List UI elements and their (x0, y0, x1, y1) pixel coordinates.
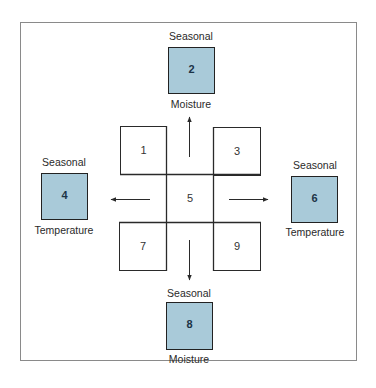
box-number: 6 (292, 192, 337, 204)
label-temperature-right: Temperature (270, 226, 360, 238)
outer-box-6: 6 (291, 176, 338, 223)
label-seasonal-left: Seasonal (19, 156, 109, 168)
grid-cell-5: 5 (167, 192, 213, 204)
outer-box-4: 4 (41, 173, 88, 220)
label-seasonal-right: Seasonal (270, 159, 360, 171)
label-moisture-bottom: Moisture (144, 353, 234, 365)
outer-box-2: 2 (168, 47, 215, 94)
label-moisture-top: Moisture (146, 98, 236, 110)
label-temperature-left: Temperature (19, 224, 109, 236)
box-number: 8 (167, 318, 212, 330)
box-number: 4 (42, 189, 87, 201)
label-seasonal-top: Seasonal (146, 30, 236, 42)
label-seasonal-bottom: Seasonal (144, 287, 234, 299)
box-number: 2 (169, 63, 214, 75)
outer-box-8: 8 (166, 302, 213, 350)
